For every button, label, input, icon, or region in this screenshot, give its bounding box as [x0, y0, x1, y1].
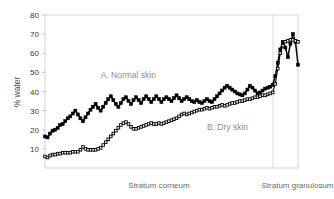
series-marker: [114, 102, 117, 105]
series-marker: [109, 135, 112, 138]
series-marker: [71, 112, 74, 115]
series-marker: [99, 147, 102, 150]
series-marker: [104, 141, 107, 144]
series-marker: [289, 42, 292, 45]
series-marker: [132, 99, 135, 102]
series-marker: [140, 101, 143, 104]
series-marker: [160, 101, 163, 104]
x-category-labels: Stratum corneumStratum granulosum: [128, 181, 334, 190]
series-marker: [115, 129, 118, 132]
series-marker: [119, 101, 122, 104]
series-marker: [253, 89, 256, 92]
series-marker: [99, 109, 102, 112]
series-marker: [135, 96, 138, 99]
y-tick-label: 30: [30, 107, 39, 116]
series-marker: [271, 91, 274, 94]
series-marker: [279, 52, 282, 55]
series-marker: [89, 108, 92, 111]
series-marker: [97, 106, 100, 109]
y-axis-title: % water: [12, 76, 22, 107]
series-marker: [87, 112, 90, 115]
series-marker: [46, 136, 49, 139]
series-marker: [137, 99, 140, 102]
series-marker: [210, 101, 213, 104]
series-marker: [109, 95, 112, 98]
water-content-line-chart: 1020304050607080 % water Stratum corneum…: [0, 0, 334, 199]
series-marker: [127, 123, 130, 126]
series-marker: [142, 98, 145, 101]
series-marker: [150, 101, 153, 104]
series-marker: [297, 63, 300, 66]
series-marker: [102, 144, 105, 147]
series-marker: [112, 132, 115, 135]
series-marker: [107, 98, 110, 101]
series-marker: [124, 96, 127, 99]
series-marker: [155, 95, 158, 98]
series-marker: [251, 86, 254, 89]
series-marker: [79, 149, 82, 152]
series-marker: [94, 102, 97, 105]
series-marker: [64, 120, 67, 123]
series-marker: [291, 33, 294, 36]
series-marker: [147, 98, 150, 101]
series-marker: [286, 56, 289, 59]
x-category-label: Stratum corneum: [128, 181, 190, 190]
series-annotation-label: A. Normal skin: [101, 70, 157, 80]
x-category-label: Stratum granulosum: [261, 181, 333, 190]
y-tick-label: 20: [30, 126, 39, 135]
series-marker: [170, 100, 173, 103]
series-marker: [74, 109, 77, 112]
series-marker: [173, 97, 176, 100]
y-tick-label: 50: [30, 68, 39, 77]
series-marker: [243, 92, 246, 95]
series-marker: [49, 132, 52, 135]
series-marker: [145, 95, 148, 98]
series-marker: [112, 99, 115, 102]
series-marker: [274, 83, 277, 86]
series-marker: [117, 127, 120, 130]
series-marker: [178, 97, 181, 100]
series-marker: [246, 88, 249, 91]
series-marker: [61, 123, 64, 126]
series-marker: [276, 67, 279, 70]
series-marker: [221, 89, 224, 92]
series-marker: [175, 94, 178, 97]
y-tick-label: 10: [30, 145, 39, 154]
series-marker: [218, 92, 221, 95]
series-marker: [76, 113, 79, 116]
chart-container: 1020304050607080 % water Stratum corneum…: [0, 0, 334, 199]
series-marker: [79, 117, 82, 120]
series-marker: [157, 98, 160, 101]
series-marker: [56, 126, 59, 129]
series-marker: [213, 98, 216, 101]
series-marker: [84, 116, 87, 119]
series-marker: [216, 95, 219, 98]
series-marker: [81, 120, 84, 123]
series-marker: [282, 44, 285, 47]
series-marker: [104, 101, 107, 104]
y-tick-label: 70: [30, 30, 39, 39]
series-marker: [117, 105, 120, 108]
y-axis-ticks: 1020304050607080: [30, 11, 45, 154]
series-marker: [297, 40, 300, 43]
y-tick-label: 60: [30, 49, 39, 58]
y-tick-label: 80: [30, 11, 39, 20]
series-marker: [102, 105, 105, 108]
series-marker: [152, 98, 155, 101]
series-marker: [130, 102, 133, 105]
series-marker: [127, 100, 130, 103]
series-marker: [92, 105, 95, 108]
series-marker: [107, 138, 110, 141]
y-tick-label: 40: [30, 88, 39, 97]
series-annotation-label: B. Dry skin: [207, 122, 248, 132]
series-marker: [69, 115, 72, 118]
